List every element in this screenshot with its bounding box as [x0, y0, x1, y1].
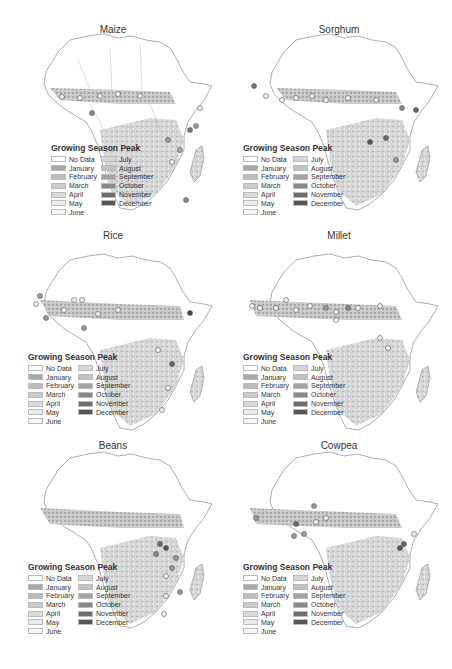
legend-items: No DataJanuaryFebruaryMarchAprilMayJuneJ… — [51, 155, 153, 217]
legend-label: November — [311, 191, 343, 198]
legend-label: October — [96, 391, 121, 398]
legend-swatch — [293, 365, 308, 371]
legend-label: July — [311, 156, 323, 163]
legend-title: Growing Season Peak — [51, 143, 153, 153]
legend-label: March — [46, 391, 65, 398]
legend-label: October — [311, 601, 336, 608]
legend-items: No DataJanuaryFebruaryMarchAprilMayJuneJ… — [28, 364, 130, 426]
legend-label: July — [96, 365, 108, 372]
legend-item: November — [293, 190, 345, 199]
legend-label: September — [311, 592, 345, 599]
legend-item: January — [243, 164, 289, 173]
legend-swatch — [293, 200, 308, 206]
legend-label: February — [46, 592, 74, 599]
map-panel-sorghum: Sorghum Growing Season Peak No DataJanua… — [226, 0, 452, 218]
legend-swatch — [293, 192, 308, 198]
legend-item: October — [101, 181, 153, 190]
legend-label: September — [96, 592, 130, 599]
map-panel-beans: Beans Growing Season Peak No DataJanuary… — [0, 440, 226, 658]
legend-item: October — [78, 600, 130, 609]
legend-item: January — [28, 373, 74, 382]
legend-swatch — [78, 593, 93, 599]
legend-item: July — [78, 574, 130, 583]
legend-label: March — [261, 182, 280, 189]
legend-label: April — [46, 610, 60, 617]
legend-swatch — [293, 156, 308, 162]
legend-label: April — [261, 400, 275, 407]
legend-label: April — [261, 191, 275, 198]
legend: Growing Season Peak No DataJanuaryFebrua… — [243, 352, 345, 426]
legend-swatch — [28, 383, 43, 389]
legend-item: April — [51, 190, 97, 199]
legend-swatch — [28, 575, 43, 581]
legend-swatch — [28, 584, 43, 590]
legend-label: April — [261, 610, 275, 617]
legend-item: No Data — [243, 364, 289, 373]
legend-item: August — [78, 583, 130, 592]
legend-label: December — [311, 619, 343, 626]
legend-item: September — [293, 592, 345, 601]
legend-swatch — [243, 365, 258, 371]
legend-swatch — [243, 156, 258, 162]
legend-swatch — [243, 374, 258, 380]
legend-swatch — [28, 628, 43, 634]
legend-label: September — [311, 382, 345, 389]
legend-item: October — [293, 181, 345, 190]
legend-swatch — [28, 392, 43, 398]
legend-label: May — [261, 200, 274, 207]
legend-item: April — [28, 399, 74, 408]
legend-label: June — [46, 418, 61, 425]
legend-item: April — [243, 399, 289, 408]
legend-swatch — [293, 575, 308, 581]
legend-swatch — [78, 619, 93, 625]
map-panel-rice: Rice Growing Season Peak No DataJanuaryF… — [0, 220, 226, 438]
legend-item: November — [101, 190, 153, 199]
legend-label: July — [311, 365, 323, 372]
legend-label: No Data — [69, 156, 95, 163]
legend-swatch — [28, 409, 43, 415]
legend-item: No Data — [51, 155, 97, 164]
legend-swatch — [101, 165, 116, 171]
legend-item: February — [28, 592, 74, 601]
legend-swatch — [28, 602, 43, 608]
legend-label: June — [261, 209, 276, 216]
legend-label: May — [69, 200, 82, 207]
panel-title: Millet — [226, 230, 452, 241]
legend-item: December — [78, 618, 130, 627]
legend-item: April — [28, 609, 74, 618]
legend-label: January — [261, 165, 286, 172]
legend-swatch — [243, 183, 258, 189]
legend-swatch — [78, 383, 93, 389]
legend-label: May — [261, 619, 274, 626]
legend-items: No DataJanuaryFebruaryMarchAprilMayJuneJ… — [243, 364, 345, 426]
legend-label: November — [96, 400, 128, 407]
legend-label: March — [261, 391, 280, 398]
legend-swatch — [243, 602, 258, 608]
legend-label: September — [96, 382, 130, 389]
legend-swatch — [243, 584, 258, 590]
legend-item: September — [293, 382, 345, 391]
legend-swatch — [28, 374, 43, 380]
panel-title: Sorghum — [226, 24, 452, 35]
legend-label: No Data — [46, 365, 72, 372]
legend-item: April — [243, 190, 289, 199]
legend-swatch — [243, 575, 258, 581]
legend-item: August — [293, 164, 345, 173]
legend-label: June — [261, 628, 276, 635]
legend-label: September — [311, 173, 345, 180]
legend-swatch — [243, 401, 258, 407]
legend-item: December — [101, 199, 153, 208]
legend-label: July — [119, 156, 131, 163]
legend-swatch — [293, 183, 308, 189]
legend: Growing Season Peak No DataJanuaryFebrua… — [243, 143, 345, 217]
legend-swatch — [51, 183, 66, 189]
legend-item: August — [293, 583, 345, 592]
legend-label: February — [46, 382, 74, 389]
legend-label: August — [311, 374, 333, 381]
legend-swatch — [78, 401, 93, 407]
legend-swatch — [243, 165, 258, 171]
legend-item: June — [51, 208, 97, 217]
legend-item: March — [28, 600, 74, 609]
map-panel-millet: Millet Growing Season Peak No DataJanuar… — [226, 220, 452, 438]
legend-label: October — [119, 182, 144, 189]
